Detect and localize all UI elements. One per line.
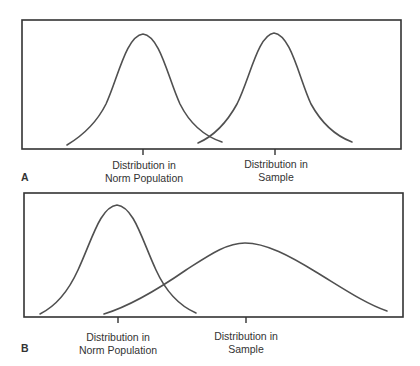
panel-b-norm-population-label-line2: Norm Population [79, 344, 157, 356]
panel-b-sample-curve [104, 243, 387, 314]
panel-b-norm-population-label-line1: Distribution in [86, 331, 150, 343]
panel-b-letter: B [21, 342, 29, 354]
distribution-comparison-figure: Distribution in Norm Population Distribu… [0, 0, 420, 366]
panel-b-frame [24, 193, 403, 317]
panel-a-sample-label-line2: Sample [258, 171, 294, 183]
panel-b-sample-label-line1: Distribution in [214, 330, 278, 342]
panel-b-sample-label-line2: Sample [228, 343, 264, 355]
panel-a: Distribution in Norm Population Distribu… [21, 20, 401, 184]
panel-a-norm-population-curve [67, 34, 222, 145]
panel-a-norm-population-label-line1: Distribution in [112, 159, 176, 171]
panel-a-norm-population-label-line2: Norm Population [105, 172, 183, 184]
panel-a-sample-curve [198, 33, 352, 143]
panel-a-sample-label-line1: Distribution in [244, 158, 308, 170]
panel-b-norm-population-curve [40, 205, 196, 314]
panel-a-letter: A [21, 171, 29, 183]
panel-a-frame [22, 20, 401, 149]
panel-b: Distribution in Norm Population Distribu… [21, 193, 403, 356]
